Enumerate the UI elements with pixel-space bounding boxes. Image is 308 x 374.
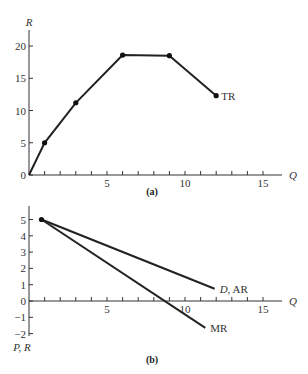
y-tick-label: 3 xyxy=(21,246,27,258)
y-tick-label: 0 xyxy=(21,169,27,181)
series-label-rest: , AR xyxy=(228,283,249,295)
panel-label: (a) xyxy=(146,186,158,198)
series-label: D, AR xyxy=(219,283,249,295)
y-tick-label: 15 xyxy=(15,72,27,84)
data-point xyxy=(120,52,125,57)
series-label: MR xyxy=(210,322,228,334)
y-tick-label: 1 xyxy=(21,279,27,291)
data-point xyxy=(214,93,219,98)
x-tick-label: 5 xyxy=(104,303,110,315)
series-line-mr xyxy=(42,220,206,328)
y-tick-label: 4 xyxy=(21,230,27,242)
y-tick-label: −2 xyxy=(14,328,26,340)
x-tick-label: 10 xyxy=(180,177,192,189)
y-tick-label: −1 xyxy=(14,311,26,323)
y-tick-label: 5 xyxy=(21,137,27,149)
x-tick-label: 10 xyxy=(180,303,192,315)
y-tick-label: 0 xyxy=(21,295,27,307)
start-point xyxy=(39,217,44,222)
y-tick-label: 10 xyxy=(15,105,27,117)
y-tick-label: 20 xyxy=(15,40,27,52)
y-axis-label: R xyxy=(25,16,33,28)
x-tick-label: 15 xyxy=(258,177,270,189)
series-label: TR xyxy=(221,90,236,102)
series-line-d-ar xyxy=(42,220,215,289)
series-label-italic: D xyxy=(219,283,228,295)
data-point xyxy=(42,140,47,145)
figure: 5101505101520QR(a)TR 51015−2−1012345QP, … xyxy=(0,0,308,374)
panel-b-chart: 51015−2−1012345QP, R(b)D, ARMR xyxy=(12,206,297,366)
y-tick-label: 5 xyxy=(21,214,27,226)
series-line-tr xyxy=(29,55,216,175)
x-axis-label: Q xyxy=(289,295,297,307)
panel-label: (b) xyxy=(146,354,158,366)
y-tick-label: 2 xyxy=(21,262,27,274)
x-tick-label: 5 xyxy=(104,177,110,189)
panel-a-chart: 5101505101520QR(a)TR xyxy=(15,16,297,198)
x-axis-label: Q xyxy=(289,169,297,181)
y-axis-label: P, R xyxy=(12,341,31,353)
data-point xyxy=(73,100,78,105)
x-tick-label: 15 xyxy=(258,303,270,315)
data-point xyxy=(167,53,172,58)
